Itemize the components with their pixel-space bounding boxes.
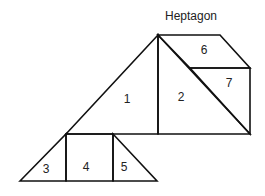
piece-3-label: 3 — [43, 162, 50, 176]
piece-4-square — [66, 134, 113, 181]
piece-7-triangle — [190, 68, 250, 134]
piece-4-label: 4 — [83, 160, 90, 174]
piece-5-triangle — [113, 134, 157, 181]
piece-1-label: 1 — [124, 92, 131, 106]
diagram-title: Heptagon — [165, 9, 217, 23]
piece-7-label: 7 — [226, 76, 233, 90]
tangram-heptagon-diagram: Heptagon 1 2 3 4 5 6 7 — [0, 0, 265, 196]
piece-5-label: 5 — [121, 160, 128, 174]
piece-1-triangle — [66, 35, 158, 134]
piece-6-label: 6 — [201, 43, 208, 57]
piece-2-label: 2 — [178, 90, 185, 104]
